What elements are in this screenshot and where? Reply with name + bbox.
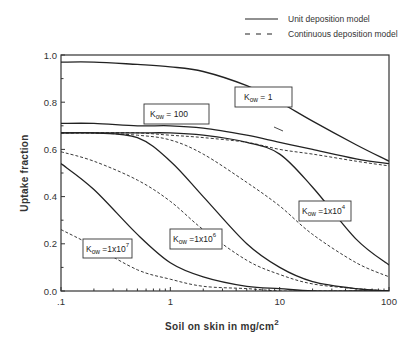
x-axis-title: Soil on skin in mg/cm2 [165, 318, 279, 332]
legend-label-continuous: Continuous deposition model [288, 29, 398, 39]
y-tick-label: 0.4 [44, 191, 57, 202]
y-axis-title: Uptake fraction [19, 134, 30, 211]
y-tick-label: 0.8 [44, 97, 57, 108]
annotation-kow-1e4: Kow =1x104 [299, 201, 351, 221]
annotation-kow-1e6: Kow =1x106 [170, 229, 222, 249]
y-tick-label: 0.2 [44, 238, 57, 249]
uptake-fraction-chart: Unit deposition model Continuous deposit… [0, 0, 413, 348]
annotation-kow-1e7: Kow =1x107 [83, 239, 132, 258]
y-tick-label: 0.0 [44, 286, 57, 297]
x-axis: .1110100 [57, 287, 397, 307]
y-axis: 0.00.20.40.60.81.0 [44, 50, 65, 297]
svg-text:Kow = 1: Kow = 1 [244, 92, 273, 103]
x-tick-label: 100 [381, 296, 397, 307]
series-line [61, 62, 389, 161]
annotation-kow-1: Kow = 1 [235, 87, 292, 107]
y-tick-label: 0.6 [44, 144, 57, 155]
legend-label-unit: Unit deposition model [288, 14, 370, 24]
series-line [61, 164, 389, 292]
x-tick-label: 10 [274, 296, 285, 307]
x-tick-label: 1 [168, 296, 173, 307]
x-tick-label: .1 [57, 296, 65, 307]
y-tick-label: 1.0 [44, 50, 57, 61]
annotation-kow-100: Kow = 100 [144, 104, 209, 124]
legend: Unit deposition model Continuous deposit… [245, 14, 398, 39]
series-line [61, 123, 389, 163]
